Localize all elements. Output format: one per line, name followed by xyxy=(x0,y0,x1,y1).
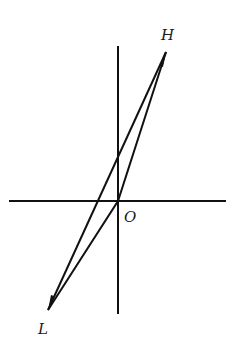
label-l: L xyxy=(37,320,48,338)
label-o: O xyxy=(124,208,136,226)
tip-h xyxy=(160,52,166,67)
label-h: H xyxy=(160,26,175,44)
diagram-canvas: H L O xyxy=(0,0,236,341)
loop-upper-branch xyxy=(48,52,166,310)
